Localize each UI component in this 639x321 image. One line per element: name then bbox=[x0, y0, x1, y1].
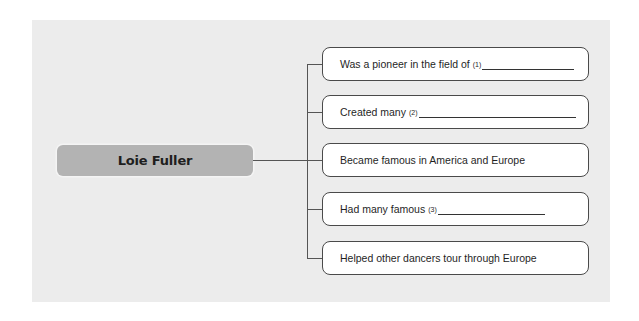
connector-branch-3 bbox=[307, 160, 322, 161]
branch-box-4: Had many famous (3) bbox=[322, 192, 589, 226]
branch-box-3: Became famous in America and Europe bbox=[322, 143, 589, 177]
answer-blank[interactable] bbox=[438, 204, 545, 215]
branch-text: Helped other dancers tour through Europe bbox=[340, 252, 537, 264]
blank-number: (1) bbox=[473, 61, 482, 68]
branch-text: Became famous in America and Europe bbox=[340, 154, 525, 166]
connector-trunk bbox=[253, 160, 308, 161]
branch-text: Created many bbox=[340, 106, 406, 118]
answer-blank[interactable] bbox=[419, 107, 576, 118]
connector-branch-4 bbox=[307, 209, 322, 210]
center-node: Loie Fuller bbox=[57, 145, 253, 176]
connector-spine bbox=[307, 64, 308, 259]
branch-box-1: Was a pioneer in the field of (1) bbox=[322, 47, 589, 81]
answer-blank[interactable] bbox=[482, 59, 574, 70]
connector-branch-2 bbox=[307, 112, 322, 113]
connector-branch-5 bbox=[307, 258, 322, 259]
branch-text: Had many famous bbox=[340, 203, 425, 215]
connector-branch-1 bbox=[307, 64, 322, 65]
center-node-label: Loie Fuller bbox=[118, 153, 192, 168]
branch-box-2: Created many (2) bbox=[322, 95, 589, 129]
blank-number: (3) bbox=[428, 206, 437, 213]
branch-box-5: Helped other dancers tour through Europe bbox=[322, 241, 589, 275]
blank-number: (2) bbox=[409, 109, 418, 116]
branch-text: Was a pioneer in the field of bbox=[340, 58, 470, 70]
